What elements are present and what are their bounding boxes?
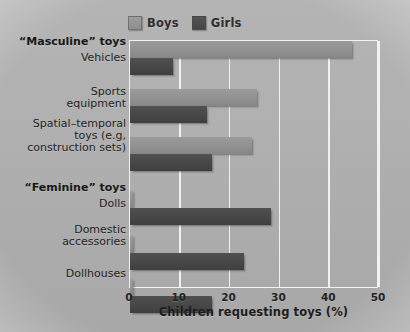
- y-label-construction-sets: construction sets): [2, 142, 126, 154]
- x-tick-label-20: 20: [221, 291, 236, 303]
- bar-boys-4: [130, 236, 133, 253]
- bar-boys-1: [130, 89, 257, 106]
- legend-item-boys[interactable]: Boys: [128, 16, 179, 30]
- gridline-40: [328, 41, 330, 287]
- bar-girls-2: [130, 154, 212, 171]
- x-axis-ticks: 01020304050: [129, 291, 378, 305]
- y-label-vehicles: Vehicles: [2, 52, 126, 64]
- x-tick-label-30: 30: [271, 291, 286, 303]
- bar-boys-2: [130, 137, 252, 154]
- gridline-50: [378, 41, 380, 287]
- x-tick-label-10: 10: [171, 291, 186, 303]
- y-axis-labels: “Masculine” toysVehiclesSportsequipmentS…: [0, 0, 126, 332]
- x-tick-label-0: 0: [125, 291, 132, 303]
- y-label-equipment: equipment: [2, 98, 126, 110]
- x-tick-label-40: 40: [321, 291, 336, 303]
- bar-girls-1: [130, 106, 207, 123]
- y-label-masculine-toys: “Masculine” toys: [2, 36, 126, 48]
- gridline-30: [279, 41, 281, 287]
- x-axis-title: Children requesting toys (%): [129, 305, 378, 319]
- bar-girls-4: [130, 253, 244, 270]
- legend-label-boys: Boys: [147, 16, 179, 30]
- chart-legend: Boys Girls: [128, 15, 242, 31]
- bar-girls-0: [130, 58, 173, 75]
- bar-chart-figure: Boys Girls “Masculine” toysVehiclesSport…: [0, 0, 410, 332]
- y-label-dolls: Dolls: [2, 198, 126, 210]
- legend-item-girls[interactable]: Girls: [192, 16, 242, 30]
- gridline-20: [229, 41, 231, 287]
- bar-boys-0: [130, 41, 352, 58]
- boys-swatch-icon: [128, 16, 142, 30]
- y-label-feminine-toys: “Feminine” toys: [2, 182, 126, 194]
- bar-girls-3: [130, 208, 271, 225]
- legend-label-girls: Girls: [211, 16, 242, 30]
- girls-swatch-icon: [192, 16, 206, 30]
- x-tick-label-50: 50: [371, 291, 386, 303]
- bar-boys-3: [130, 191, 133, 208]
- plot-area: [129, 40, 378, 288]
- y-label-dollhouses: Dollhouses: [2, 268, 126, 280]
- y-label-accessories: accessories: [2, 236, 126, 248]
